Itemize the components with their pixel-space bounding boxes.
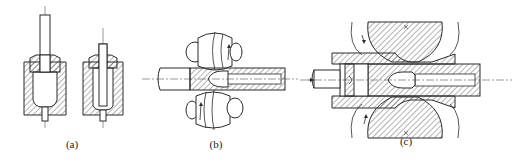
figure-b: (b) (140, 0, 300, 164)
figure-c-caption: (c) (386, 135, 426, 147)
figure-b-caption: (b) (196, 138, 236, 150)
figure-a-caption: (a) (52, 138, 92, 150)
figure-a: (a) (0, 0, 140, 164)
figure-c: (c) (300, 0, 512, 164)
